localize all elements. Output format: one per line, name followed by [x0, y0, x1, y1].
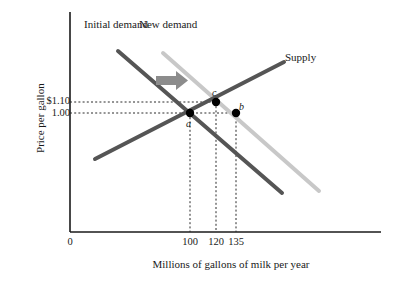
curve-label-supply: Supply [285, 51, 316, 63]
x-tick-label-135: 135 [224, 236, 248, 248]
x-tick-label-0: 0 [60, 236, 80, 248]
supply-demand-figure: Initial demand New demand Supply Price p… [0, 0, 406, 285]
curve-label-new-demand: New demand [139, 18, 197, 30]
point-marker-c [212, 98, 220, 106]
point-label-b: b [239, 101, 244, 112]
initial-demand-curve [118, 51, 282, 193]
x-tick-label-100: 100 [178, 236, 202, 248]
point-marker-a [186, 109, 194, 117]
y-tick-label-100: 1.00 [38, 107, 70, 119]
point-label-c: c [212, 87, 216, 98]
guide-lines [70, 102, 236, 232]
y-tick-label-110: $1.10 [38, 95, 70, 107]
axes [70, 12, 381, 232]
x-axis-title: Millions of gallons of milk per year [86, 258, 376, 270]
point-label-a: a [186, 118, 191, 129]
